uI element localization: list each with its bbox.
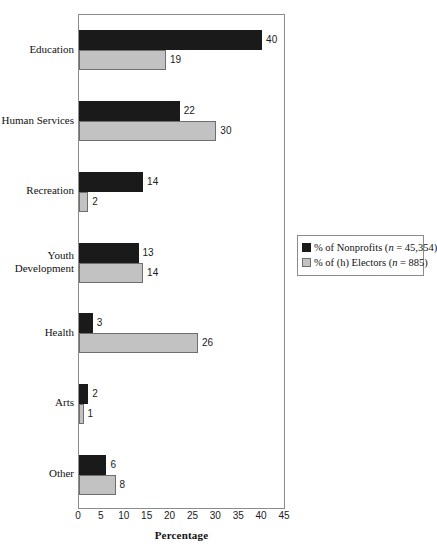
x-tick-label: 30 (210, 510, 221, 521)
bar-group: 4019 (79, 30, 284, 70)
bar-nonprofits (79, 243, 139, 263)
bar-value-label: 14 (147, 263, 158, 283)
legend-entry: % of Nonprofits (n = 45,354) (302, 240, 419, 255)
bar-electors (79, 50, 166, 70)
bar-group: 2230 (79, 101, 284, 141)
bar-value-label: 40 (266, 30, 277, 50)
bar-nonprofits (79, 172, 143, 192)
category-label: Education (0, 43, 74, 56)
legend-swatch-light (302, 258, 311, 267)
bar-value-label: 26 (202, 333, 213, 353)
legend-label: % of Nonprofits (n = 45,354) (314, 242, 437, 253)
bar-electors (79, 475, 116, 495)
bar-nonprofits (79, 101, 180, 121)
bar-nonprofits (79, 455, 106, 475)
x-tick-label: 10 (118, 510, 129, 521)
plot-area: 4019223014213143262168 (78, 14, 285, 509)
bar-group: 68 (79, 455, 284, 495)
x-axis-title: Percentage (78, 529, 285, 541)
bar-group: 21 (79, 384, 284, 424)
x-tick-label: 0 (75, 510, 81, 521)
x-tick-label: 45 (278, 510, 289, 521)
category-label: Other (0, 467, 74, 480)
bar-group: 142 (79, 172, 284, 212)
bar-value-label: 30 (220, 121, 231, 141)
x-tick-label: 5 (98, 510, 104, 521)
x-tick-label: 35 (233, 510, 244, 521)
bar-electors (79, 192, 88, 212)
category-label: Arts (0, 396, 74, 409)
bar-group: 326 (79, 313, 284, 353)
bar-group: 1314 (79, 243, 284, 283)
bar-electors (79, 333, 198, 353)
bar-value-label: 2 (92, 384, 98, 404)
legend-entry: % of (h) Electors (n = 885) (302, 255, 419, 270)
bar-nonprofits (79, 30, 262, 50)
bar-value-label: 19 (170, 50, 181, 70)
chart-legend: % of Nonprofits (n = 45,354)% of (h) Ele… (297, 235, 424, 276)
legend-swatch-dark (302, 243, 311, 252)
x-tick-label: 15 (141, 510, 152, 521)
category-axis-labels: EducationHuman ServicesRecreationYouth D… (0, 14, 74, 509)
bar-electors (79, 404, 84, 424)
category-label: Recreation (0, 184, 74, 197)
bar-nonprofits (79, 313, 93, 333)
x-tick-label: 20 (164, 510, 175, 521)
bar-nonprofits (79, 384, 88, 404)
bar-value-label: 2 (92, 192, 98, 212)
x-tick-label: 40 (256, 510, 267, 521)
bar-value-label: 3 (97, 313, 103, 333)
category-label: Youth Development (0, 249, 74, 275)
bar-value-label: 8 (120, 475, 126, 495)
bar-electors (79, 263, 143, 283)
bar-electors (79, 121, 216, 141)
category-label: Health (0, 326, 74, 339)
x-tick-label: 25 (187, 510, 198, 521)
bar-value-label: 6 (110, 455, 116, 475)
x-axis-tick-labels: 051015202530354045 (78, 510, 285, 526)
category-label: Human Services (0, 114, 74, 127)
bar-value-label: 1 (88, 404, 94, 424)
legend-label: % of (h) Electors (n = 885) (314, 257, 428, 268)
bar-value-label: 22 (184, 101, 195, 121)
bar-value-label: 13 (143, 243, 154, 263)
bar-value-label: 14 (147, 172, 158, 192)
